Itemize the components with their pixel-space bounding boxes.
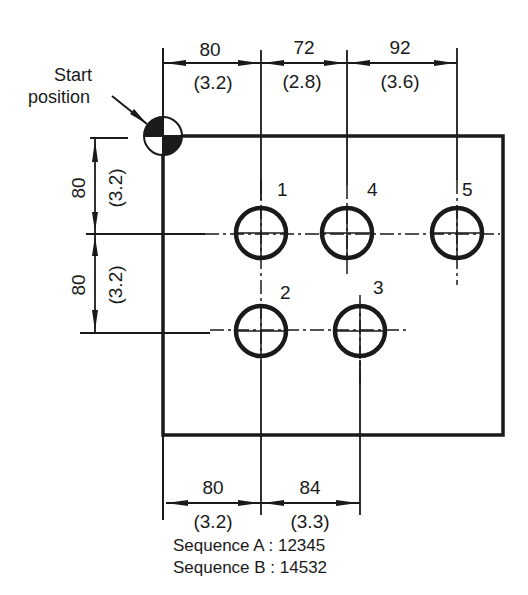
top-dim-1-in: (3.2) bbox=[193, 73, 232, 92]
leader-arrowhead-icon bbox=[130, 109, 147, 124]
bottom-dim-1-in: (3.2) bbox=[193, 512, 232, 531]
top-dim-3-mm: 92 bbox=[389, 38, 410, 57]
sequence-b: Sequence B : 14532 bbox=[173, 558, 327, 578]
top-dim-2-in: (2.8) bbox=[282, 72, 321, 91]
left-dim-2-mm: 80 bbox=[69, 274, 88, 295]
left-dim-1-in: (3.2) bbox=[106, 168, 125, 207]
bottom-dim-2-mm: 84 bbox=[299, 478, 320, 497]
hole-label-5: 5 bbox=[462, 180, 473, 199]
top-dim-1-mm: 80 bbox=[199, 40, 220, 59]
plate-outline bbox=[163, 136, 503, 435]
bottom-dim-1-mm: 80 bbox=[202, 478, 223, 497]
hole-label-4: 4 bbox=[367, 180, 378, 199]
hole-label-2: 2 bbox=[280, 283, 291, 302]
hole-label-3: 3 bbox=[373, 278, 384, 297]
hole-crosshairs bbox=[236, 208, 482, 356]
left-dim-2-in: (3.2) bbox=[106, 265, 125, 304]
start-label: Start position bbox=[40, 64, 92, 108]
sequence-a: Sequence A : 12345 bbox=[173, 536, 325, 556]
start-label-line2: position bbox=[26, 86, 92, 108]
hole-label-1: 1 bbox=[277, 180, 288, 199]
top-dim-2-mm: 72 bbox=[293, 38, 314, 57]
start-label-line1: Start bbox=[40, 64, 92, 86]
bottom-dim-2-in: (3.3) bbox=[290, 512, 329, 531]
top-dim-3-in: (3.6) bbox=[380, 72, 419, 91]
datum-start-icon bbox=[144, 117, 182, 155]
left-dim-1-mm: 80 bbox=[69, 177, 88, 198]
